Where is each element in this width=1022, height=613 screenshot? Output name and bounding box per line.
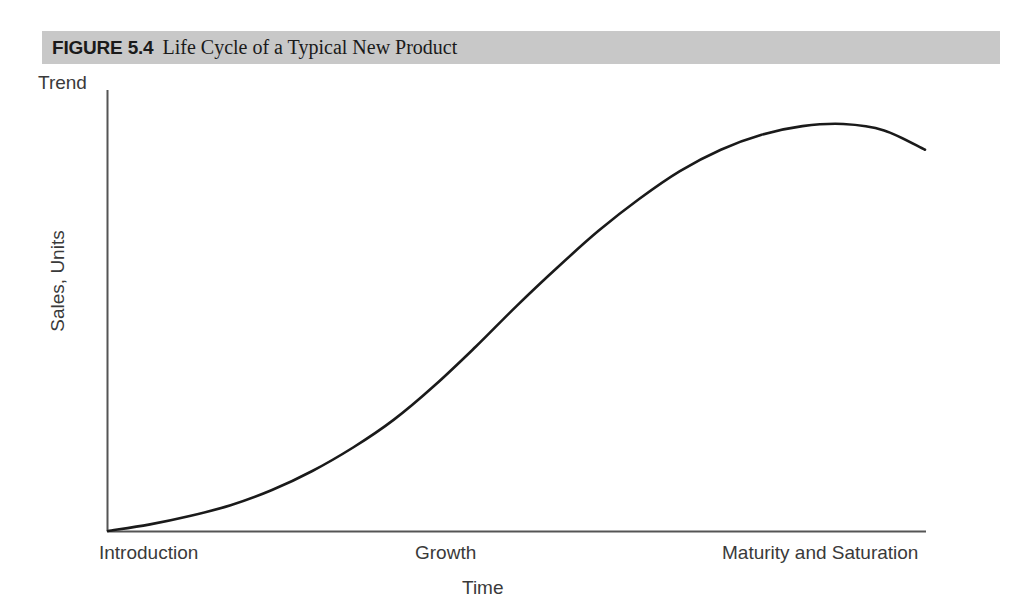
- chart-plot-svg: [0, 0, 1022, 613]
- life-cycle-curve: [108, 124, 925, 531]
- y-axis-title-label: Sales, Units: [47, 211, 69, 351]
- x-axis-title-label: Time: [462, 577, 504, 599]
- x-axis-stage-label-introduction: Introduction: [99, 542, 198, 564]
- x-axis-stage-label-growth: Growth: [415, 542, 476, 564]
- y-axis-top-label: Trend: [38, 72, 87, 94]
- product-life-cycle-chart: Trend Sales, Units Introduction Growth M…: [0, 0, 1022, 613]
- x-axis-stage-label-maturity: Maturity and Saturation: [722, 542, 918, 564]
